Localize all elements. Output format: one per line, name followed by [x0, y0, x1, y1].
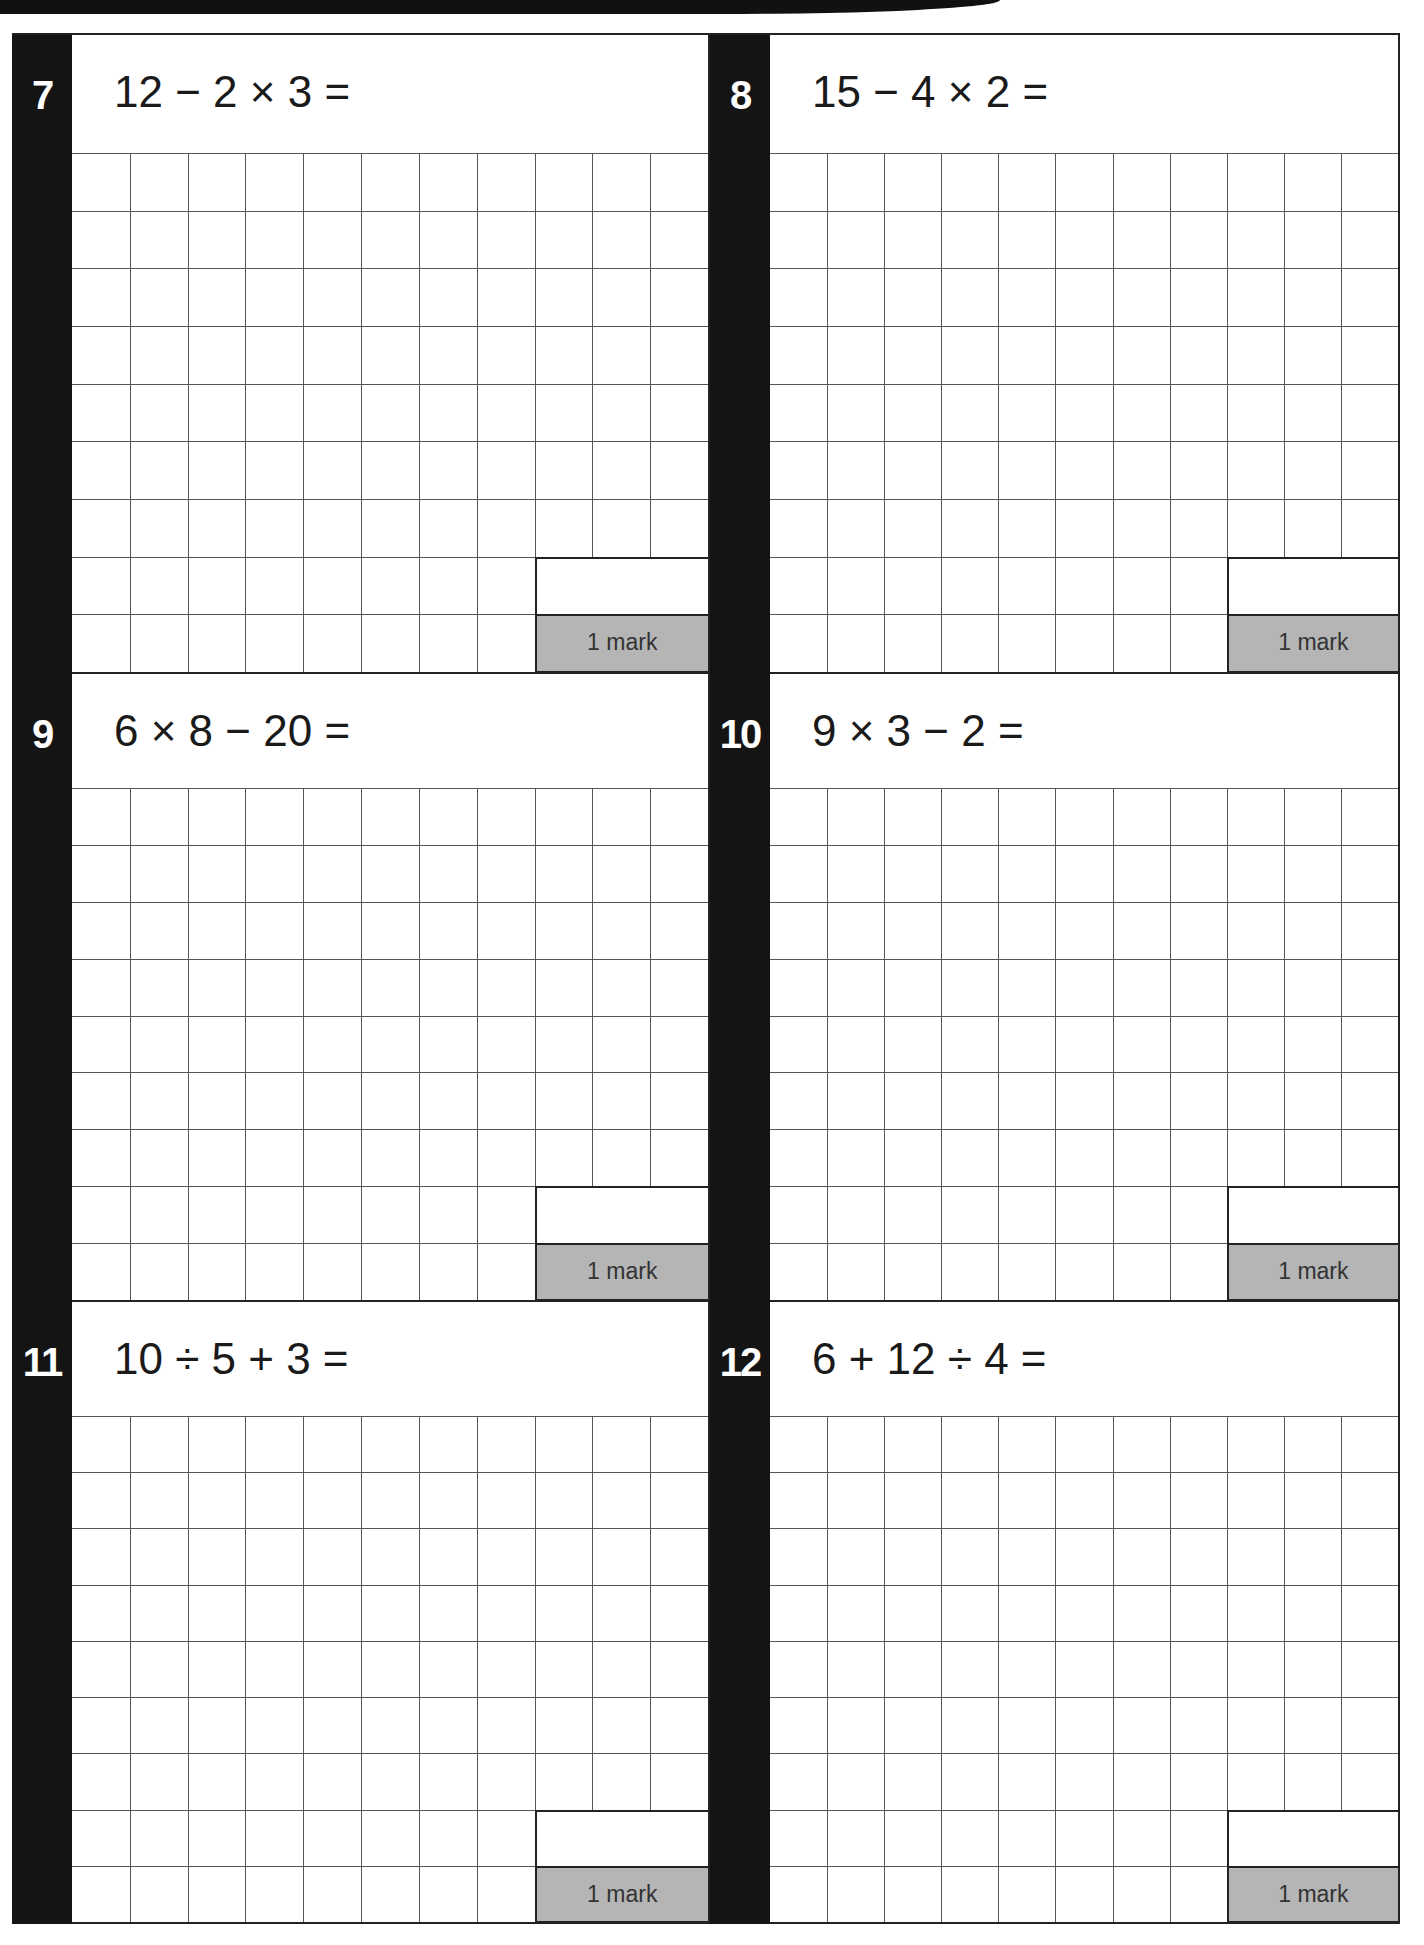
grid-cell — [477, 499, 535, 557]
grid-cell — [884, 845, 941, 902]
grid-cell — [827, 1585, 884, 1641]
grid-cell — [770, 1866, 827, 1922]
grid-cell — [1227, 384, 1284, 442]
grid-cell — [650, 1016, 708, 1073]
grid-cell — [1055, 1528, 1112, 1584]
grid-cell — [245, 1243, 303, 1300]
grid-cell — [941, 1528, 998, 1584]
grid-cell — [998, 499, 1055, 557]
grid-cell — [361, 1866, 419, 1922]
grid-cell — [1055, 959, 1112, 1016]
grid-cell — [1227, 1016, 1284, 1073]
working-grid[interactable]: 1 mark — [72, 1416, 708, 1922]
working-grid[interactable]: 1 mark — [770, 153, 1398, 672]
grid-cell — [361, 211, 419, 269]
grid-cell — [361, 788, 419, 845]
grid-cell — [130, 1866, 188, 1922]
grid-cell — [941, 845, 998, 902]
working-grid[interactable]: 1 mark — [770, 1416, 1398, 1922]
grid-cell — [998, 1416, 1055, 1472]
grid-cell — [72, 1186, 130, 1243]
grid-cell — [303, 1697, 361, 1753]
grid-cell — [130, 1810, 188, 1866]
grid-cell — [477, 1641, 535, 1697]
grid-cell — [303, 614, 361, 672]
grid-cell — [884, 614, 941, 672]
grid-cell — [884, 1016, 941, 1073]
grid-cell — [419, 1243, 477, 1300]
working-grid[interactable]: 1 mark — [72, 153, 708, 672]
grid-cell — [303, 441, 361, 499]
grid-cell — [1170, 268, 1227, 326]
question-expression: 15 − 4 × 2 = — [812, 67, 1048, 117]
answer-box[interactable] — [1227, 1186, 1400, 1245]
grid-cell — [245, 614, 303, 672]
mark-label: 1 mark — [1227, 614, 1400, 673]
answer-box[interactable] — [535, 557, 710, 617]
grid-cell — [130, 1585, 188, 1641]
grid-cell — [1113, 1697, 1170, 1753]
grid-cell — [419, 1416, 477, 1472]
grid-cell — [827, 1016, 884, 1073]
grid-cell — [884, 1472, 941, 1528]
answer-box[interactable] — [1227, 1810, 1400, 1868]
grid-cell — [130, 902, 188, 959]
grid-cell — [477, 902, 535, 959]
grid-cell — [998, 153, 1055, 211]
question-expression: 6 × 8 − 20 = — [114, 706, 350, 756]
grid-cell — [361, 268, 419, 326]
grid-cell — [72, 1243, 130, 1300]
grid-cell — [1341, 1641, 1398, 1697]
grid-cell — [1284, 326, 1341, 384]
answer-box[interactable] — [1227, 557, 1400, 617]
grid-cell — [1227, 1472, 1284, 1528]
question-panel-11: 1110 ÷ 5 + 3 =1 mark — [12, 1302, 710, 1924]
grid-cell — [1341, 959, 1398, 1016]
grid-cell — [535, 1416, 593, 1472]
grid-cell — [770, 1129, 827, 1186]
grid-cell — [941, 499, 998, 557]
grid-cell — [1055, 153, 1112, 211]
grid-cell — [1227, 959, 1284, 1016]
grid-cell — [884, 1243, 941, 1300]
answer-box[interactable] — [535, 1810, 710, 1868]
grid-cell — [941, 1072, 998, 1129]
question-content: 10 ÷ 5 + 3 =1 mark — [72, 1302, 710, 1924]
grid-cell — [770, 499, 827, 557]
grid-cell — [827, 902, 884, 959]
grid-cell — [770, 1416, 827, 1472]
grid-cell — [188, 902, 246, 959]
grid-cell — [361, 1186, 419, 1243]
answer-box[interactable] — [535, 1186, 710, 1245]
grid-cell — [245, 384, 303, 442]
grid-cell — [361, 384, 419, 442]
grid-cell — [535, 959, 593, 1016]
grid-cell — [303, 1753, 361, 1809]
grid-cell — [1341, 1016, 1398, 1073]
grid-cell — [1113, 557, 1170, 615]
grid-cell — [130, 1697, 188, 1753]
grid-cell — [72, 153, 130, 211]
grid-cell — [1341, 1472, 1398, 1528]
grid-cell — [884, 441, 941, 499]
grid-cell — [72, 1810, 130, 1866]
working-grid[interactable]: 1 mark — [770, 788, 1398, 1300]
grid-cell — [130, 1641, 188, 1697]
grid-cell — [998, 614, 1055, 672]
grid-cell — [770, 1753, 827, 1809]
question-number: 9 — [12, 712, 72, 757]
grid-cell — [130, 1528, 188, 1584]
grid-cell — [884, 1810, 941, 1866]
grid-cell — [419, 557, 477, 615]
grid-cell — [535, 499, 593, 557]
grid-cell — [1227, 1129, 1284, 1186]
grid-cell — [941, 1472, 998, 1528]
working-grid[interactable]: 1 mark — [72, 788, 708, 1300]
grid-cell — [1113, 1585, 1170, 1641]
grid-cell — [1113, 1186, 1170, 1243]
question-number-bar: 8 — [710, 35, 770, 674]
grid-cell — [770, 211, 827, 269]
grid-cell — [361, 845, 419, 902]
grid-cell — [592, 1641, 650, 1697]
grid-cell — [650, 1416, 708, 1472]
